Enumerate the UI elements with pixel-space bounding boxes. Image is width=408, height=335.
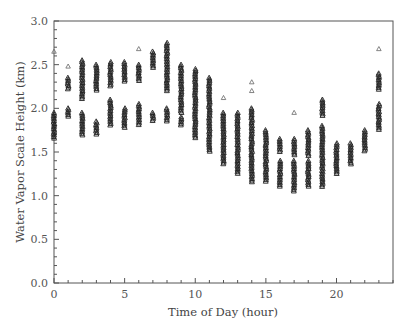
x-tick-label: 20 [330,288,344,301]
y-tick-label: 0.0 [31,277,49,290]
x-tick-label: 0 [51,288,58,301]
y-tick-label: 0.5 [31,233,49,246]
y-tick-label: 1.5 [31,146,49,159]
x-tick-label: 15 [259,288,273,301]
y-tick-label: 1.0 [31,190,49,203]
y-tick-label: 3.0 [31,15,49,28]
y-axis-title: Water Vapor Scale Height (km) [13,61,27,243]
y-tick-label: 2.0 [31,102,49,115]
scatter-chart: 051015200.00.51.01.52.02.53.0 Time of Da… [0,0,408,335]
x-tick-label: 10 [188,288,202,301]
x-tick-label: 5 [121,288,128,301]
y-tick-label: 2.5 [31,59,49,72]
x-axis-title: Time of Day (hour) [168,305,278,319]
